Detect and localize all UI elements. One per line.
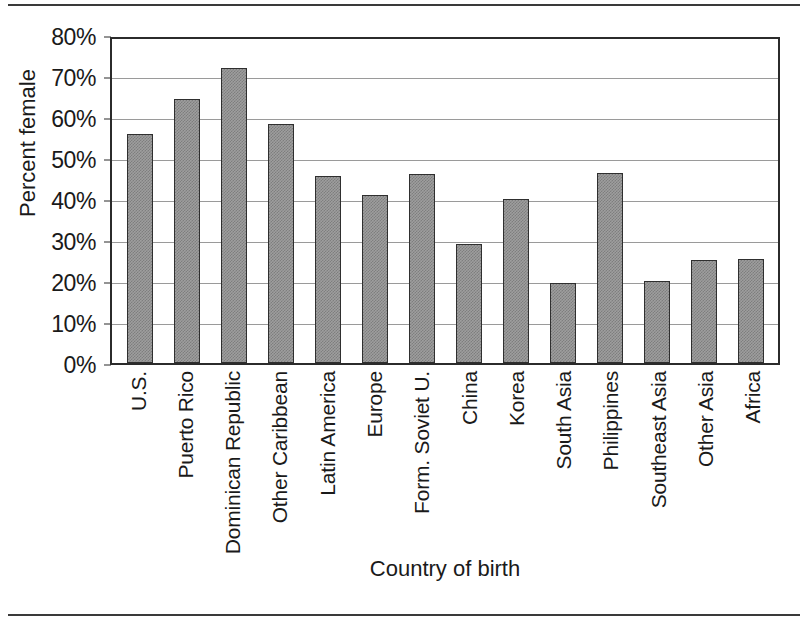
x-axis-label-slot: Latin America bbox=[303, 367, 350, 537]
y-axis-tick-label: 10% bbox=[51, 313, 96, 336]
x-axis-tick-labels: U.S.Puerto RicoDominican RepublicOther C… bbox=[110, 367, 780, 537]
bar bbox=[409, 174, 435, 363]
bar bbox=[456, 244, 482, 363]
bar bbox=[268, 124, 294, 363]
bar-slot bbox=[445, 39, 492, 363]
y-axis-tick-label: 50% bbox=[51, 149, 96, 172]
bar bbox=[644, 281, 670, 363]
x-axis-label-slot: Europe bbox=[350, 367, 397, 537]
bar-slot bbox=[539, 39, 586, 363]
bar bbox=[315, 176, 341, 363]
figure-bottom-rule bbox=[8, 614, 800, 616]
x-axis-title: Country of birth bbox=[110, 556, 780, 582]
x-axis-label-slot: U.S. bbox=[114, 367, 161, 537]
x-axis-tick-label: U.S. bbox=[127, 371, 148, 411]
x-axis-label-slot: China bbox=[445, 367, 492, 537]
x-axis-tick-label: Other Asia bbox=[695, 371, 716, 467]
x-axis-tick-label: Philippines bbox=[600, 371, 621, 470]
bar-slot bbox=[351, 39, 398, 363]
y-axis-tick-label: 40% bbox=[51, 190, 96, 213]
figure-top-rule bbox=[8, 4, 800, 6]
y-axis-tick-label: 30% bbox=[51, 231, 96, 254]
y-axis-tick-label: 70% bbox=[51, 67, 96, 90]
x-axis-tick-label: Form. Soviet U. bbox=[411, 371, 432, 514]
bar bbox=[503, 199, 529, 363]
x-axis-label-slot: Korea bbox=[492, 367, 539, 537]
y-axis-tick-label: 20% bbox=[51, 272, 96, 295]
x-axis-tick-label: South Asia bbox=[553, 371, 574, 469]
x-axis-tick-label: Dominican Republic bbox=[222, 371, 243, 554]
x-axis-label-slot: Other Caribbean bbox=[256, 367, 303, 537]
x-axis-label-slot: Puerto Rico bbox=[161, 367, 208, 537]
bar-slot bbox=[257, 39, 304, 363]
bar-slot bbox=[398, 39, 445, 363]
x-axis-tick-label: Southeast Asia bbox=[647, 371, 668, 508]
bar-slot bbox=[304, 39, 351, 363]
bar-slot bbox=[210, 39, 257, 363]
bar-slot bbox=[727, 39, 774, 363]
bar bbox=[174, 99, 200, 363]
y-axis-tick-label: 60% bbox=[51, 108, 96, 131]
bar bbox=[127, 134, 153, 363]
bar-slot bbox=[116, 39, 163, 363]
bar-slot bbox=[680, 39, 727, 363]
x-axis-tick-label: Korea bbox=[505, 371, 526, 426]
bar bbox=[550, 283, 576, 363]
bar-slot bbox=[163, 39, 210, 363]
x-axis-label-slot: Other Asia bbox=[681, 367, 728, 537]
figure-frame: Percent female 80%70%60%50%40%30%20%10%0… bbox=[0, 0, 808, 635]
plot-area bbox=[110, 37, 780, 365]
bar bbox=[362, 195, 388, 363]
x-axis-tick-label: Latin America bbox=[316, 371, 337, 496]
y-axis-tick-label: 80% bbox=[51, 26, 96, 49]
bar bbox=[597, 173, 623, 363]
bar-slot bbox=[492, 39, 539, 363]
bar-series bbox=[112, 39, 778, 363]
bar bbox=[738, 259, 764, 363]
x-axis-tick-label: Europe bbox=[364, 371, 385, 438]
bar-slot bbox=[633, 39, 680, 363]
x-axis-tick-label: China bbox=[458, 371, 479, 425]
x-axis-label-slot: South Asia bbox=[540, 367, 587, 537]
x-axis-label-slot: Africa bbox=[729, 367, 776, 537]
x-axis-tick-label: Africa bbox=[742, 371, 763, 423]
bar bbox=[691, 260, 717, 363]
bar-slot bbox=[586, 39, 633, 363]
x-axis-label-slot: Dominican Republic bbox=[209, 367, 256, 537]
x-axis-label-slot: Form. Soviet U. bbox=[398, 367, 445, 537]
y-axis-ticks: 80%70%60%50%40%30%20%10%0% bbox=[0, 37, 104, 365]
x-axis-label-slot: Philippines bbox=[587, 367, 634, 537]
x-axis-label-slot: Southeast Asia bbox=[634, 367, 681, 537]
bar bbox=[221, 68, 247, 363]
y-axis-tick-label: 0% bbox=[64, 354, 96, 377]
x-axis-tick-label: Other Caribbean bbox=[269, 371, 290, 523]
x-axis-tick-label: Puerto Rico bbox=[174, 371, 195, 479]
